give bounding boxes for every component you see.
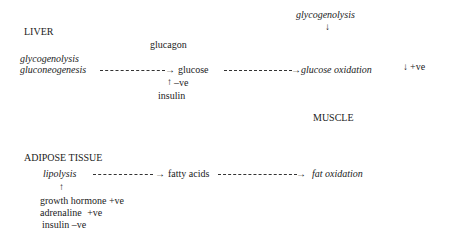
positive-effect-label: +ve xyxy=(410,61,425,73)
dashed-connector-fatty-acids-oxidation xyxy=(218,174,297,175)
regulator-growth-hormone: growth hormone +ve xyxy=(40,195,124,207)
up-arrow-icon: ↑ xyxy=(59,181,64,193)
dashed-connector-glucose-oxidation xyxy=(224,70,292,71)
glucagon-label: glucagon xyxy=(150,39,187,51)
liver-heading: LIVER xyxy=(24,26,53,38)
up-arrow-icon: ↑ xyxy=(167,76,172,88)
regulator-name: insulin xyxy=(42,219,69,230)
glucose-oxidation-label: glucose oxidation xyxy=(301,64,372,76)
right-arrow-icon: → xyxy=(296,168,306,180)
muscle-heading: MUSCLE xyxy=(313,112,354,124)
down-arrow-icon: ↓ xyxy=(325,21,330,33)
fatty-acids-label: fatty acids xyxy=(168,168,209,180)
regulator-effect: +ve xyxy=(109,195,124,206)
right-arrow-icon: → xyxy=(155,168,165,180)
regulator-effect: +ve xyxy=(87,207,102,218)
dashed-connector-lipolysis-fatty-acids xyxy=(93,174,153,175)
negative-effect-label: –ve xyxy=(174,77,188,89)
insulin-label: insulin xyxy=(158,90,185,102)
muscle-glycogenolysis-label: glycogenolysis xyxy=(296,9,355,21)
regulator-insulin: insulin –ve xyxy=(42,219,86,231)
lipolysis-label: lipolysis xyxy=(43,168,76,180)
adipose-heading: ADIPOSE TISSUE xyxy=(24,152,102,164)
down-arrow-icon: ↓ xyxy=(403,61,408,73)
right-arrow-icon: → xyxy=(165,64,175,76)
gluconeogenesis-label: gluconeogenesis xyxy=(20,64,86,76)
regulator-adrenaline: adrenaline +ve xyxy=(40,207,102,219)
glucose-label: glucose xyxy=(178,64,209,76)
regulator-effect: –ve xyxy=(72,219,86,230)
regulator-name: adrenaline xyxy=(40,207,82,218)
fat-oxidation-label: fat oxidation xyxy=(312,168,363,180)
right-arrow-icon: → xyxy=(291,64,301,76)
regulator-name: growth hormone xyxy=(40,195,106,206)
dashed-connector-liver-glucose xyxy=(100,70,165,71)
